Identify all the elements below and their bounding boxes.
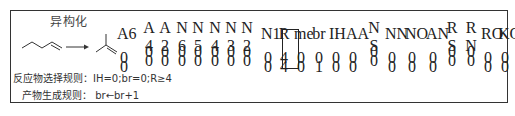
column-header: A	[158, 19, 172, 37]
column-header: R	[464, 19, 478, 37]
column-n4: N400	[208, 17, 222, 61]
column-nn: NN00	[385, 17, 399, 67]
column-header: NN	[385, 25, 399, 43]
cell-value: 0	[426, 58, 440, 67]
column-subheader: 6	[175, 37, 189, 55]
cell-value: 0	[346, 58, 360, 67]
column-subheader: 5	[191, 37, 205, 55]
column-n3: N300	[224, 17, 238, 61]
cell-value: 0	[498, 58, 512, 67]
cell-value: 0	[426, 49, 440, 58]
column-aa: AA00	[346, 17, 360, 67]
reaction-scheme-icon	[20, 32, 130, 56]
cell-value: 4	[277, 49, 291, 58]
product-generation-rule: 产物生成规则： br←br+1	[22, 87, 139, 102]
column-header: N	[224, 19, 238, 37]
column-header: NO	[405, 25, 419, 43]
cell-value: 0	[346, 49, 360, 58]
column-subheader: 4	[208, 37, 222, 55]
column-rn: RN00	[464, 17, 478, 61]
cell-value: 0	[261, 58, 275, 67]
column-subheader: N	[464, 37, 478, 55]
column-header: N	[191, 19, 205, 37]
cell-value: 0	[481, 58, 495, 67]
column-no: NO00	[405, 17, 419, 67]
reaction-title: 异构化	[50, 12, 88, 29]
column-ko: KO00	[498, 17, 512, 67]
cell-value: 0	[385, 49, 399, 58]
column-header: N	[175, 19, 189, 37]
column-n5: N500	[191, 17, 205, 61]
column-header: R	[277, 25, 291, 43]
cell-value: 0	[294, 58, 308, 67]
column-rs: RS00	[445, 17, 459, 61]
cell-value: 0	[405, 58, 419, 67]
column-ns: NS00	[367, 17, 381, 61]
cell-value: 0	[261, 49, 275, 58]
column-br: br01	[312, 17, 326, 67]
column-subheader: 2	[158, 37, 172, 55]
column-subheader: S	[445, 37, 459, 55]
column-ih: IH00	[329, 17, 343, 67]
cell-value: 0	[405, 49, 419, 58]
column-header: A6	[117, 25, 131, 43]
column-header: N	[240, 19, 254, 37]
column-n6: N600	[175, 17, 189, 61]
cell-value: 0	[117, 58, 131, 67]
column-header: R	[445, 19, 459, 37]
column-header: me	[294, 25, 308, 43]
cell-value: 1	[312, 58, 326, 67]
column-header: AA	[346, 25, 360, 43]
column-a4: A400	[142, 17, 156, 61]
column-header: KO	[498, 25, 512, 43]
column-a2: A200	[158, 17, 172, 61]
column-me: me00	[294, 17, 308, 67]
column-subheader: 4	[142, 37, 156, 55]
column-r: R44	[277, 17, 291, 67]
column-a6: A600	[117, 17, 131, 67]
cell-value: 0	[385, 58, 399, 67]
column-n1: N100	[261, 17, 275, 67]
column-ro: RO00	[481, 17, 495, 67]
column-subheader: 3	[224, 37, 238, 55]
column-header: N	[367, 19, 381, 37]
cell-value: 0	[498, 49, 512, 58]
column-header: RO	[481, 25, 495, 43]
column-header: A	[142, 19, 156, 37]
cell-value: 0	[481, 49, 495, 58]
column-n2: N200	[240, 17, 254, 61]
cell-value: 0	[329, 58, 343, 67]
reactant-selection-rule: 反应物选择规则：IH=0;br=0;R≥4	[13, 70, 172, 85]
column-subheader: 2	[240, 37, 254, 55]
column-header: br	[312, 25, 326, 43]
column-subheader: S	[367, 37, 381, 55]
column-header: N1	[261, 25, 275, 43]
cell-value: 0	[312, 49, 326, 58]
cell-value: 0	[117, 49, 131, 58]
column-header: IH	[329, 25, 343, 43]
cell-value: 4	[277, 58, 291, 67]
cell-value: 0	[294, 49, 308, 58]
cell-value: 0	[329, 49, 343, 58]
column-header: N	[208, 19, 222, 37]
column-header: AN	[426, 25, 440, 43]
column-an: AN00	[426, 17, 440, 67]
